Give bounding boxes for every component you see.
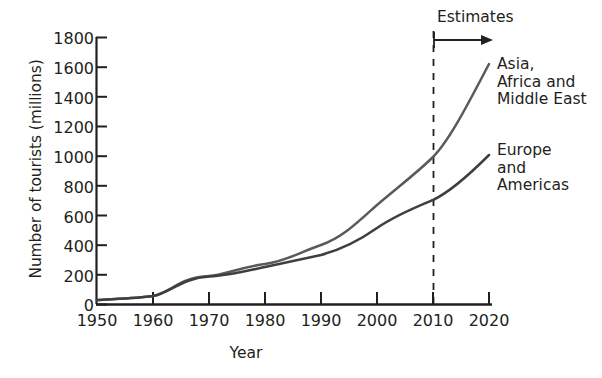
series-label-asia-line-2: Africa and [497,74,587,92]
y-tick-label-1200: 1200 [32,118,94,137]
series-path-asia-africa-middle-east [97,64,489,300]
x-tick-label-1990: 1990 [293,311,349,330]
series-label-europe-line-2: and [497,160,569,178]
x-tick-label-1950: 1950 [69,311,125,330]
y-tick-label-200: 200 [32,267,94,286]
y-tick-label-600: 600 [32,208,94,227]
y-tick-label-800: 800 [32,178,94,197]
series-label-asia-line-1: Asia, [497,56,587,74]
chart-figure: Number of tourists (millions) Year 1800 … [0,0,602,378]
x-tick-label-1980: 1980 [237,311,293,330]
x-tick-label-1960: 1960 [125,311,181,330]
x-tick-label-1970: 1970 [181,311,237,330]
series-label-asia-africa-middle-east: Asia, Africa and Middle East [497,56,587,109]
estimates-arrow-icon [434,32,493,48]
series-label-europe-line-3: Americas [497,177,569,195]
y-tick-label-1400: 1400 [32,89,94,108]
x-tick-label-2020: 2020 [461,311,517,330]
estimates-label: Estimates [437,8,514,26]
y-tick-label-1600: 1600 [32,59,94,78]
y-axis-ticks [96,38,107,305]
series-label-asia-line-3: Middle East [497,91,587,109]
x-axis-ticks [153,292,489,304]
series-label-europe-americas: Europe and Americas [497,142,569,195]
series-path-europe-americas [97,155,489,300]
series-label-europe-line-1: Europe [497,142,569,160]
y-tick-label-1800: 1800 [32,29,94,48]
y-tick-label-1000: 1000 [32,148,94,167]
x-tick-label-2010: 2010 [405,311,461,330]
y-tick-label-400: 400 [32,237,94,256]
x-tick-label-2000: 2000 [349,311,405,330]
x-axis-title: Year [0,344,492,362]
